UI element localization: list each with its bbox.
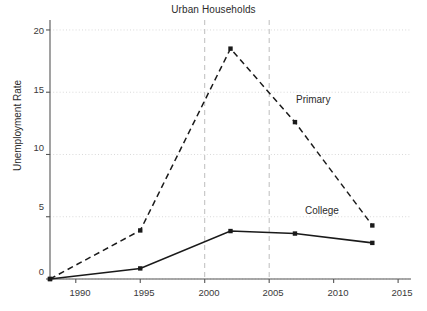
data-point-college — [48, 277, 52, 281]
data-point-primary — [293, 120, 297, 124]
data-point-college — [293, 231, 297, 235]
series-line-college — [50, 231, 372, 279]
series-line-primary — [50, 49, 372, 279]
chart-container: Urban Households Unemployment Rate 20 15… — [0, 0, 427, 311]
data-point-primary — [138, 228, 142, 232]
data-point-college — [228, 229, 232, 233]
data-point-college — [370, 241, 374, 245]
data-point-primary — [228, 46, 232, 50]
data-point-primary — [370, 223, 374, 227]
plot-area — [0, 0, 427, 311]
data-point-college — [138, 266, 142, 270]
